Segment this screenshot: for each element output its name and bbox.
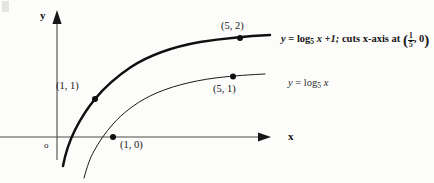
point-1-1-marker [92,96,98,102]
log-graph-figure: y x o (1, 1) (5, 2) (1, 0) (5, 1) y = lo… [0,0,434,183]
equation-bold-arg: x +1; [314,33,342,44]
equation-thin-curve: y = log5 x [288,78,328,90]
y-axis-label: y [40,10,46,21]
point-5-1-marker [230,74,236,80]
x-axis-arrowhead [258,133,271,142]
equation-bold-tail: , 0 [414,33,425,44]
point-label-5-1: (5, 1) [213,84,236,95]
point-label-1-1: (1, 1) [56,81,79,92]
point-label-5-2: (5, 2) [221,21,244,32]
equation-bold-log: log [297,33,310,44]
y-axis-arrowhead [52,10,61,24]
x-axis-label: x [288,131,294,142]
point-label-1-0: (1, 0) [120,140,143,151]
equation-thin-equals: = [293,77,304,88]
equation-thin-log: log [304,77,317,88]
equation-bold-curve: y = log5 x +1; cuts x-axis at (15, 0) [281,32,429,48]
equation-bold-equals: = [286,33,297,44]
point-1-0-marker [110,134,116,140]
equation-bold-note: cuts x-axis at [342,33,403,44]
equation-thin-arg: x [321,77,328,88]
point-5-2-marker [237,35,243,41]
origin-label: o [44,141,49,150]
curve-log5x [84,74,265,178]
equation-bold-close-paren: ) [424,32,429,48]
